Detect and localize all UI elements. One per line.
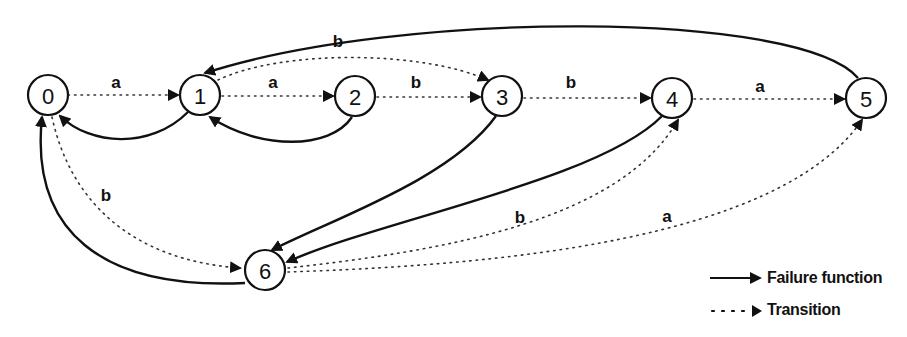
state-label-6: 6 [259, 259, 271, 284]
transition-edge-6-4 [288, 120, 678, 268]
edge-label-3-4: b [566, 73, 576, 92]
legend-transition-label: Transition [767, 301, 840, 319]
legend-failure-row: Failure function [708, 262, 907, 294]
failure-edge-2-1 [210, 117, 352, 142]
edge-label-2-3: b [411, 73, 421, 92]
transition-edge-0-6 [52, 117, 240, 268]
state-node-0: 0 [28, 75, 68, 115]
edge-label-6-5: a [662, 207, 672, 226]
state-node-6: 6 [245, 250, 285, 290]
edge-label-0-6: b [101, 186, 111, 205]
state-node-1: 1 [180, 75, 220, 115]
solid-arrow-icon [708, 271, 763, 285]
state-node-2: 2 [335, 76, 375, 116]
legend: Failure function Transition [708, 262, 907, 326]
edge-label-1-3: b [333, 32, 343, 51]
legend-failure-label: Failure function [767, 269, 882, 287]
failure-edge-3-6 [272, 116, 496, 250]
edge-label-0-1: a [111, 73, 121, 92]
state-node-5: 5 [846, 78, 886, 118]
edge-label-6-4: b [515, 208, 525, 227]
failure-edge-4-6 [287, 116, 662, 262]
state-label-1: 1 [194, 84, 206, 109]
state-label-4: 4 [666, 87, 678, 112]
state-label-2: 2 [349, 85, 361, 110]
state-label-5: 5 [860, 87, 872, 112]
state-label-0: 0 [42, 84, 54, 109]
edge-label-4-5: a [755, 77, 765, 96]
failure-edge-1-0 [60, 112, 188, 139]
state-label-3: 3 [496, 85, 508, 110]
transition-edge-6-5 [288, 120, 862, 272]
edge-label-1-2: a [268, 73, 278, 92]
legend-transition-row: Transition [708, 294, 907, 326]
dotted-arrow-icon [708, 303, 763, 317]
failure-edge-5-1 [205, 26, 858, 78]
failure-edge-6-0 [41, 117, 245, 284]
state-node-4: 4 [652, 78, 692, 118]
state-node-3: 3 [482, 76, 522, 116]
